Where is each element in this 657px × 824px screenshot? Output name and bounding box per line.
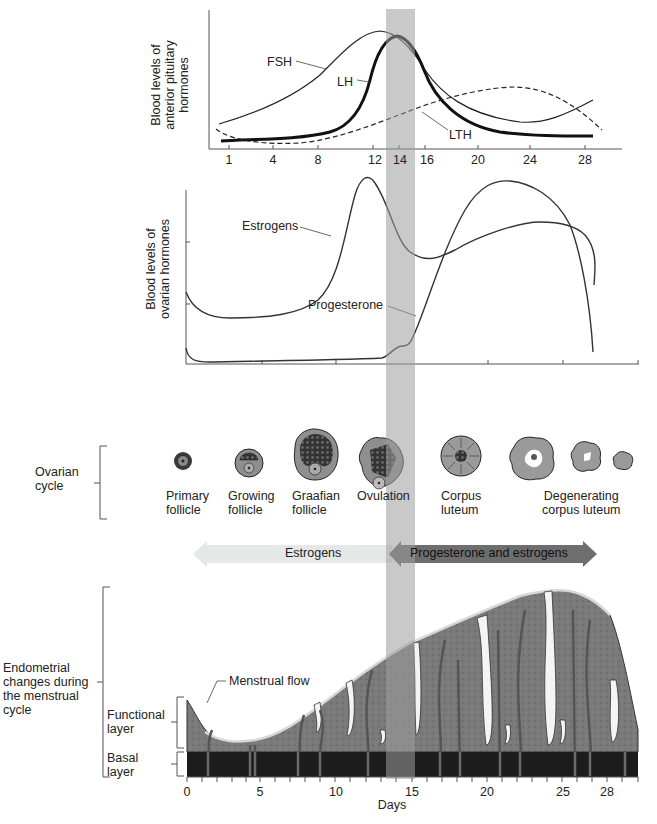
growing-follicle-icon: [235, 449, 263, 477]
stage-line: Corpus: [441, 489, 481, 503]
stage-line: Growing: [228, 489, 275, 503]
pituitary-tick: 1: [226, 153, 233, 167]
primary-follicle-icon: [174, 452, 192, 470]
degenerating-corpus-luteum-icon: [510, 437, 554, 480]
stage-growing-follicle: Growing follicle: [228, 489, 275, 517]
ylabel-line: anterior pituitary: [163, 31, 177, 139]
pituitary-tick: 28: [578, 153, 592, 167]
stage-line: follicle: [292, 503, 340, 517]
pituitary-tick: 16: [420, 153, 434, 167]
label-line: layer: [107, 722, 165, 736]
label-line: the menstrual: [3, 689, 88, 703]
pituitary-tick: 12: [368, 153, 382, 167]
endometrial-changes-label: Endometrial changes during the menstrual…: [3, 661, 88, 717]
ovarian-ylabel: Blood levels of ovarian hormones: [144, 214, 174, 324]
stage-primary-follicle: Primary follicle: [166, 489, 209, 517]
day-tick: 0: [184, 785, 191, 799]
days-axis-title: Days: [378, 798, 406, 812]
label-line: changes during: [3, 675, 88, 689]
stage-line: Primary: [166, 489, 209, 503]
stage-line: follicle: [228, 503, 275, 517]
stage-line: corpus luteum: [542, 503, 621, 517]
fsh-label: FSH: [267, 55, 292, 69]
day-tick: 28: [600, 785, 614, 799]
estrogens-phase-label: Estrogens: [285, 546, 341, 560]
label-line: layer: [107, 765, 138, 779]
ylabel-line: ovarian hormones: [158, 214, 172, 324]
figure-graphics: [0, 0, 657, 824]
pituitary-tick: 24: [523, 153, 537, 167]
pituitary-tick: 20: [471, 153, 485, 167]
stage-degenerating-corpus-luteum: Degenerating corpus luteum: [542, 489, 621, 517]
label-line: Basal: [107, 751, 138, 765]
ovarian-cycle-label: Ovarian cycle: [35, 465, 79, 493]
day-tick: 20: [480, 785, 494, 799]
stage-line: Graafian: [292, 489, 340, 503]
stage-ovulation: Ovulation: [357, 489, 410, 503]
pituitary-ylabel: Blood levels of anterior pituitary hormo…: [149, 31, 193, 139]
stage-line: follicle: [166, 503, 209, 517]
stage-line: Degenerating: [542, 489, 621, 503]
label-line: Ovarian: [35, 465, 79, 479]
day-tick: 10: [329, 785, 343, 799]
day-tick: 5: [257, 785, 264, 799]
pituitary-tick: 8: [315, 153, 322, 167]
label-line: Functional: [107, 708, 165, 722]
graafian-follicle-icon: [294, 429, 338, 480]
basal-layer-label: Basal layer: [107, 751, 138, 779]
pituitary-tick: 4: [270, 153, 277, 167]
menstrual-flow-label: Menstrual flow: [229, 674, 310, 688]
luteal-phase-label: Progesterone and estrogens: [410, 546, 568, 560]
corpus-luteum-icon: [441, 436, 481, 476]
lh-label: LH: [337, 75, 353, 89]
stage-line: Ovulation: [357, 489, 410, 503]
lth-label: LTH: [449, 128, 472, 142]
functional-layer-label: Functional layer: [107, 708, 165, 736]
endometrium-illustration: [97, 587, 638, 782]
day-tick: 15: [405, 785, 419, 799]
degenerating-corpus-luteum-small-icon: [571, 442, 600, 472]
pituitary-hormone-chart: [209, 10, 622, 149]
label-line: cycle: [35, 479, 79, 493]
ylabel-line: hormones: [177, 31, 191, 139]
pituitary-tick: 14: [393, 153, 407, 167]
stage-graafian-follicle: Graafian follicle: [292, 489, 340, 517]
ylabel-line: Blood levels of: [149, 31, 163, 139]
label-line: cycle: [3, 703, 88, 717]
day-tick: 25: [556, 785, 570, 799]
degenerating-corpus-luteum-smallest-icon: [613, 452, 633, 470]
stage-line: luteum: [441, 503, 481, 517]
menstrual-cycle-figure: Blood levels of anterior pituitary hormo…: [0, 0, 657, 824]
estrogens-label: Estrogens: [242, 219, 298, 233]
ovulation-band: [386, 9, 415, 779]
progesterone-label: Progesterone: [308, 298, 383, 312]
label-line: Endometrial: [3, 661, 88, 675]
ylabel-line: Blood levels of: [144, 214, 158, 324]
stage-corpus-luteum: Corpus luteum: [441, 489, 481, 517]
